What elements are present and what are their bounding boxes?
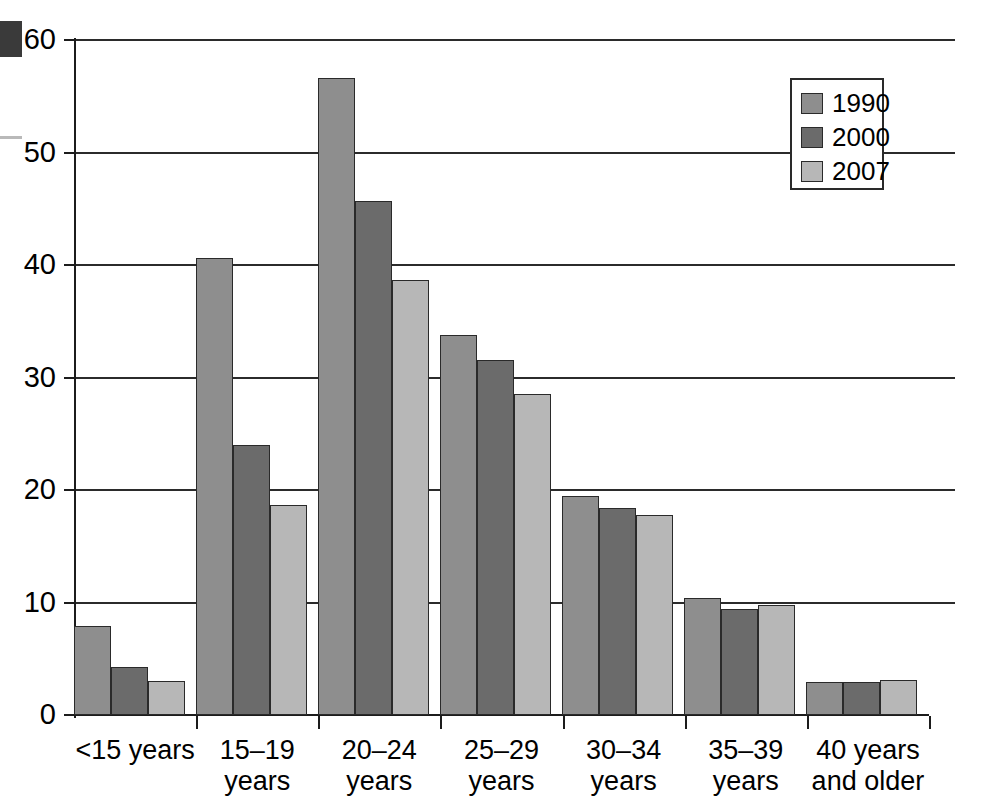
x-tick-1: [318, 716, 320, 729]
bar-2000-cat0: [111, 667, 148, 715]
category-label-3: 25–29 years: [440, 735, 562, 797]
bar-1990-cat5: [684, 598, 721, 715]
x-tick-0: [196, 716, 198, 729]
category-label-6: 40 years and older: [807, 735, 929, 797]
bar-2000-cat2: [355, 201, 392, 715]
bar-1990-cat4: [562, 496, 599, 715]
y-axis-label-10: 10: [0, 588, 56, 617]
y-axis-label-40: 40: [0, 250, 56, 279]
bar-2007-cat1: [270, 505, 307, 715]
category-label-4: 30–34 years: [563, 735, 685, 797]
category-label-1: 15–19 years: [196, 735, 318, 797]
y-axis-label-20: 20: [0, 475, 56, 504]
bar-2007-cat6: [880, 680, 917, 715]
y-axis-label-30: 30: [0, 363, 56, 392]
y-axis-label-0: 0: [0, 700, 56, 729]
legend-label-2000: 2000: [832, 124, 890, 150]
y-axis-label-60: 60: [0, 25, 56, 54]
legend-swatch-2000: [801, 127, 823, 148]
bar-2000-cat1: [233, 445, 270, 715]
bar-2000-cat4: [599, 508, 636, 715]
bar-2007-cat3: [514, 394, 551, 715]
x-tick-4: [685, 716, 687, 729]
bar-chart: 0102030405060 <15 years15–19 years20–24 …: [0, 0, 985, 808]
bar-2007-cat5: [758, 605, 795, 715]
legend-label-2007: 2007: [832, 158, 890, 184]
category-label-5: 35–39 years: [685, 735, 807, 797]
y-axis-label-50: 50: [0, 138, 56, 167]
legend-item-2000: 2000: [792, 120, 882, 154]
x-tick-2: [440, 716, 442, 729]
legend-swatch-2007: [801, 161, 823, 182]
legend-label-1990: 1990: [832, 90, 890, 116]
bar-2000-cat6: [843, 682, 880, 715]
bar-1990-cat0: [74, 626, 111, 715]
x-tick-3: [563, 716, 565, 729]
legend-swatch-1990: [801, 93, 823, 114]
category-label-0: <15 years: [74, 735, 196, 766]
bar-2007-cat0: [148, 681, 185, 715]
x-tick-5: [807, 716, 809, 729]
bar-2000-cat5: [721, 609, 758, 715]
legend-item-2007: 2007: [792, 154, 882, 188]
bar-2007-cat4: [636, 515, 673, 715]
bar-1990-cat6: [806, 682, 843, 715]
legend: 1990 2000 2007: [790, 78, 884, 190]
category-label-2: 20–24 years: [318, 735, 440, 797]
legend-item-1990: 1990: [792, 86, 882, 120]
x-tick-6: [929, 716, 931, 729]
y-axis-line: [74, 38, 76, 718]
bar-1990-cat3: [440, 335, 477, 715]
bar-2000-cat3: [477, 360, 514, 716]
gridline-60: [74, 39, 955, 41]
bar-1990-cat2: [318, 78, 355, 715]
bar-2007-cat2: [392, 280, 429, 715]
bar-1990-cat1: [196, 258, 233, 715]
